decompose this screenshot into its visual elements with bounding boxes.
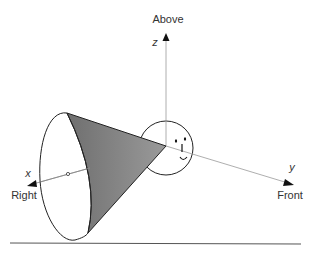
y-arrow-icon <box>283 179 294 186</box>
x-arrow-icon <box>27 180 37 187</box>
label-z: z <box>151 36 158 48</box>
label-above: Above <box>152 13 183 25</box>
z-arrow-icon <box>163 33 170 41</box>
coordinate-diagram: Above z x Right y Front <box>0 0 314 255</box>
label-right: Right <box>11 189 37 201</box>
left-eye <box>175 139 177 143</box>
label-y: y <box>288 161 296 173</box>
label-x: x <box>24 167 31 179</box>
ear-center-marker <box>66 172 69 175</box>
right-eye <box>184 137 186 141</box>
label-front: Front <box>277 189 303 201</box>
baseline-rule <box>10 243 301 244</box>
